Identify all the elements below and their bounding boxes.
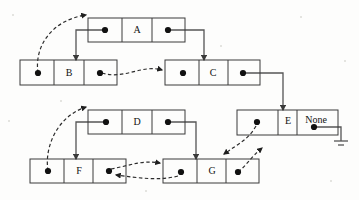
node-c[interactable]: C [165, 60, 260, 85]
link-b-next-to-c [102, 69, 162, 75]
node-g[interactable]: G [163, 159, 259, 183]
node-f-next-dot [106, 168, 112, 174]
node-e-label: E [285, 115, 291, 126]
node-f-label: F [76, 165, 82, 176]
paper-speckle-group [8, 14, 346, 192]
link-a-next-to-c [168, 30, 204, 60]
node-d-prev-dot [103, 119, 109, 125]
node-f[interactable]: F [30, 159, 126, 183]
node-c-next-dot [240, 70, 246, 76]
linked-list-diagram: A B C D [0, 0, 359, 200]
node-a-label: A [133, 24, 141, 35]
node-e-none-label: None [305, 114, 327, 125]
link-e-prev-to-g [224, 126, 256, 154]
node-c-label: C [210, 67, 217, 78]
node-b-next-dot [97, 70, 103, 76]
node-d-label: D [133, 116, 140, 127]
node-a-prev-dot [102, 27, 108, 33]
node-b[interactable]: B [20, 60, 117, 85]
node-a-next-dot [165, 27, 171, 33]
node-b-label: B [66, 67, 73, 78]
link-a-prev-to-b [76, 30, 106, 60]
link-d-next-to-g [168, 122, 196, 159]
link-g-next-to-e [238, 148, 262, 172]
node-g-prev-dot [178, 169, 184, 175]
link-e-next-to-ground [314, 127, 348, 145]
diagram-canvas: A B C D [0, 0, 359, 200]
link-b-prev-to-a [37, 15, 86, 73]
node-g-next-dot [235, 169, 241, 175]
link-d-prev-to-f [76, 122, 106, 159]
node-e-prev-dot [254, 119, 260, 125]
node-e-next-dot [311, 124, 317, 130]
node-g-label: G [208, 165, 215, 176]
link-f-prev-to-d [47, 107, 86, 171]
link-g-prev-to-f [116, 175, 178, 179]
link-c-next-to-e [243, 73, 283, 110]
node-f-prev-dot [45, 168, 51, 174]
node-a[interactable]: A [88, 18, 185, 42]
node-b-prev-dot [35, 70, 41, 76]
link-f-next-to-g [111, 162, 160, 169]
node-c-prev-dot [180, 70, 186, 76]
node-d-next-dot [165, 119, 171, 125]
